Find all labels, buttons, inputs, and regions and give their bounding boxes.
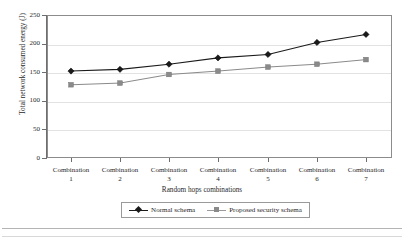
x-tick-2: [120, 158, 121, 162]
footer-rule-bottom: [2, 236, 402, 237]
x-tick-6: [317, 158, 318, 162]
y-tick-250: [42, 15, 46, 16]
x-tick-7: [366, 158, 367, 162]
legend-entry-proposed-security-schema: Proposed security schema: [207, 206, 302, 214]
footer-rule-top: [2, 228, 402, 229]
plot-area: [47, 15, 392, 158]
legend-label-normal-schema: Normal schema: [151, 206, 195, 214]
y-tick-50: [42, 129, 46, 130]
legend-marker-diamond-icon: [129, 206, 148, 214]
x-tick-5: [268, 158, 269, 162]
y-tick-150: [42, 72, 46, 73]
legend-marker-square-icon: [207, 206, 226, 214]
gridline-50: [48, 130, 391, 131]
gridline-150: [48, 73, 391, 74]
x-tick-1: [71, 158, 72, 162]
gridline-100: [48, 102, 391, 103]
x-tick-3: [169, 158, 170, 162]
chart-legend: Normal schema Proposed security schema: [121, 202, 310, 218]
y-tick-200: [42, 44, 46, 45]
legend-label-proposed-security-schema: Proposed security schema: [229, 206, 302, 214]
x-tick-4: [218, 158, 219, 162]
y-axis-line: [46, 15, 47, 159]
x-axis-title: Random hops combinations: [0, 186, 404, 194]
y-tick-label-0: 0: [16, 155, 40, 162]
gridline-200: [48, 45, 391, 46]
x-category-7-index: 7: [336, 175, 396, 184]
chart-figure: 250 200 150 100 50 0 Total network consu…: [0, 0, 404, 241]
x-category-7: Combination 7: [336, 166, 396, 184]
legend-entry-normal-schema: Normal schema: [129, 206, 195, 214]
y-axis-title: Total network consumed energy (J): [19, 0, 27, 134]
x-category-7-name: Combination: [336, 166, 396, 175]
y-tick-100: [42, 101, 46, 102]
y-tick-0: [42, 158, 46, 159]
